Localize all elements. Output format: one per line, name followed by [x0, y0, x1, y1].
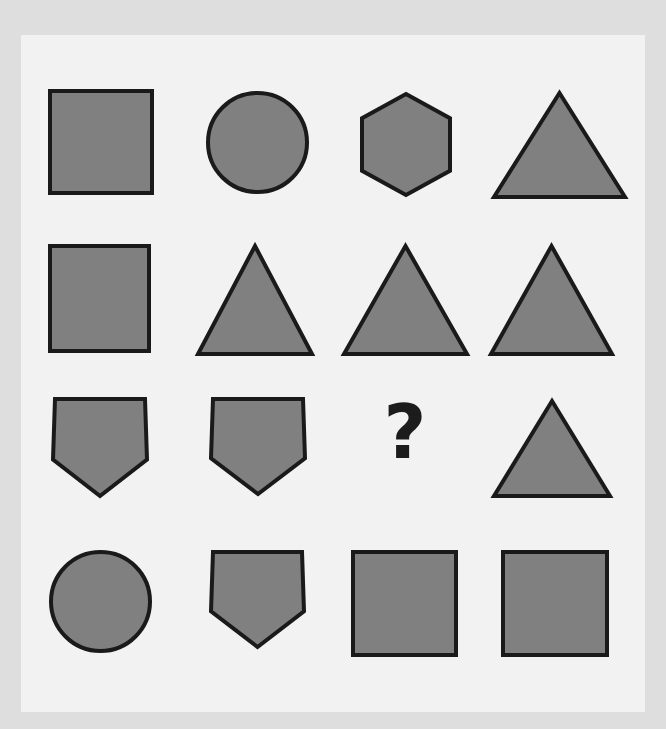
puzzle-canvas: ?	[0, 0, 666, 729]
shape-cell-r1c4-triangle	[492, 91, 627, 199]
triangle-icon	[342, 244, 469, 356]
puzzle-panel: ?	[21, 35, 645, 712]
square-icon	[501, 550, 609, 657]
shape-cell-r4c4-square	[501, 550, 609, 657]
square-icon	[48, 244, 151, 353]
shape-cell-r1c2-circle	[206, 91, 309, 194]
square-icon	[48, 89, 154, 195]
shape-cell-r2c1-square	[48, 244, 151, 353]
triangle-icon	[492, 91, 627, 199]
shape-cell-r2c3-triangle	[342, 244, 469, 356]
missing-cell-question-mark[interactable]: ?	[380, 395, 430, 469]
shape-cell-r4c1-circle	[49, 550, 152, 653]
shape-cell-r3c2-pentagon	[209, 397, 307, 496]
hexagon-icon	[360, 92, 452, 197]
shape-cell-r3c4-triangle	[492, 399, 612, 498]
square-icon	[351, 550, 458, 657]
triangle-icon	[492, 399, 612, 498]
shape-cell-r2c4-triangle	[489, 244, 614, 356]
shape-cell-r4c3-square	[351, 550, 458, 657]
pentagon-icon	[209, 397, 307, 496]
triangle-icon	[489, 244, 614, 356]
pentagon-icon	[209, 550, 306, 649]
shape-cell-r2c2-triangle	[196, 244, 314, 356]
shape-cell-r4c2-pentagon	[209, 550, 306, 649]
shape-cell-r1c3-hexagon	[360, 92, 452, 197]
circle-icon	[206, 91, 309, 194]
triangle-icon	[196, 244, 314, 356]
pentagon-icon	[51, 397, 149, 498]
shape-cell-r3c1-pentagon	[51, 397, 149, 498]
circle-icon	[49, 550, 152, 653]
shape-cell-r1c1-square	[48, 89, 154, 195]
